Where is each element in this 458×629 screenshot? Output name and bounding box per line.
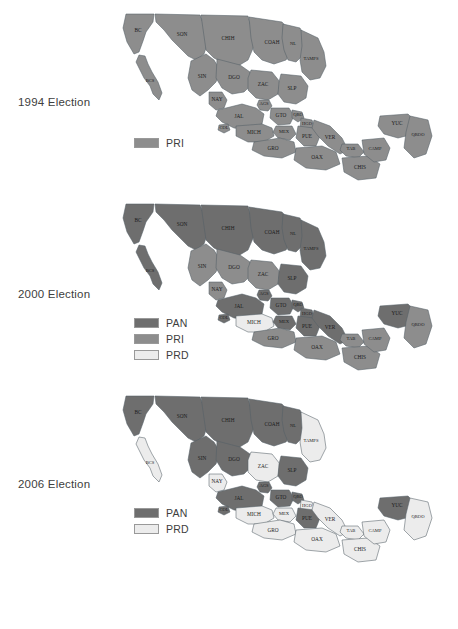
state-label-gto: GTO bbox=[276, 494, 287, 500]
panel-title-1994: 1994 Election bbox=[18, 96, 90, 108]
state-label-pue: PUE bbox=[302, 323, 312, 329]
state-label-yuc: YUC bbox=[391, 502, 403, 508]
state-son bbox=[155, 396, 208, 442]
panel-election-1994: 1994 Election PRI BCBCSSONCHIHCOAHNLTAMP… bbox=[0, 8, 458, 198]
state-label-col: COL bbox=[219, 315, 228, 320]
state-label-ver: VER bbox=[325, 516, 336, 522]
state-label-tamps: TAMPS bbox=[304, 246, 319, 251]
state-label-slp: SLP bbox=[287, 275, 296, 281]
state-label-coah: COAH bbox=[264, 39, 279, 45]
state-label-bcs: BCS bbox=[146, 78, 155, 83]
mexico-map-svg: BCBCSSONCHIHCOAHNLTAMPSSINDGOZACSLPNAYAG… bbox=[96, 8, 458, 198]
state-label-ags: AGS bbox=[259, 291, 269, 296]
state-label-qroo: QROO bbox=[411, 514, 425, 519]
state-label-tamps: TAMPS bbox=[304, 56, 319, 61]
state-label-coah: COAH bbox=[264, 421, 279, 427]
state-label-oax: OAX bbox=[311, 154, 323, 160]
state-label-qroo: QROO bbox=[411, 132, 425, 137]
state-label-mich: MICH bbox=[247, 129, 261, 135]
state-label-tamps: TAMPS bbox=[304, 438, 319, 443]
state-label-jal: JAL bbox=[234, 495, 243, 501]
state-label-yuc: YUC bbox=[391, 120, 403, 126]
state-label-mich: MICH bbox=[247, 511, 261, 517]
panel-title-2000: 2000 Election bbox=[18, 288, 90, 300]
state-bc bbox=[123, 204, 154, 244]
state-tamps bbox=[300, 220, 326, 270]
state-label-nl: NL bbox=[290, 423, 296, 428]
state-son bbox=[155, 14, 208, 60]
state-label-bcs: BCS bbox=[146, 460, 155, 465]
state-label-dgo: DGO bbox=[228, 74, 240, 80]
state-label-camp: CAMP bbox=[368, 146, 381, 151]
state-label-sin: SIN bbox=[198, 73, 207, 79]
state-label-tab: TAB bbox=[347, 336, 356, 341]
state-label-pue: PUE bbox=[302, 515, 312, 521]
state-label-ags: AGS bbox=[259, 483, 269, 488]
state-label-chis: CHIS bbox=[354, 546, 366, 552]
state-label-nay: NAY bbox=[212, 96, 223, 102]
state-qroo bbox=[404, 116, 432, 158]
state-qroo bbox=[404, 306, 432, 348]
map-2006: BCBCSSONCHIHCOAHNLTAMPSSINDGOZACSLPNAYAG… bbox=[96, 390, 458, 580]
state-tamps bbox=[300, 30, 326, 80]
panel-election-2000: 2000 Election PAN PRI PRD BCBCSSONCHIHCO… bbox=[0, 198, 458, 388]
state-label-zac: ZAC bbox=[258, 463, 269, 469]
map-2000: BCBCSSONCHIHCOAHNLTAMPSSINDGOZACSLPNAYAG… bbox=[96, 198, 458, 388]
state-label-dgo: DGO bbox=[228, 456, 240, 462]
state-label-tab: TAB bbox=[347, 146, 356, 151]
state-label-chih: CHIH bbox=[222, 225, 235, 231]
state-label-mich: MICH bbox=[247, 319, 261, 325]
state-label-qro: QRO bbox=[293, 494, 303, 499]
state-label-gro: GRO bbox=[267, 145, 278, 151]
state-label-jal: JAL bbox=[234, 113, 243, 119]
state-label-gro: GRO bbox=[267, 527, 278, 533]
state-label-sin: SIN bbox=[198, 263, 207, 269]
state-label-col: COL bbox=[219, 507, 228, 512]
state-label-nay: NAY bbox=[212, 286, 223, 292]
state-label-oax: OAX bbox=[311, 344, 323, 350]
state-label-ags: AGS bbox=[259, 101, 269, 106]
panel-title-2006: 2006 Election bbox=[18, 478, 90, 490]
state-label-qroo: QROO bbox=[411, 322, 425, 327]
state-label-tab: TAB bbox=[347, 528, 356, 533]
state-label-bc: BC bbox=[134, 409, 142, 415]
mexico-map-svg: BCBCSSONCHIHCOAHNLTAMPSSINDGOZACSLPNAYAG… bbox=[96, 390, 458, 580]
state-label-ver: VER bbox=[325, 324, 336, 330]
state-label-mex: MEX bbox=[279, 129, 290, 134]
state-label-bc: BC bbox=[134, 217, 142, 223]
state-label-son: SON bbox=[177, 31, 188, 37]
state-label-camp: CAMP bbox=[368, 336, 381, 341]
state-son bbox=[155, 204, 208, 250]
state-label-son: SON bbox=[177, 221, 188, 227]
state-label-dgo: DGO bbox=[228, 264, 240, 270]
state-label-chis: CHIS bbox=[354, 354, 366, 360]
state-label-camp: CAMP bbox=[368, 528, 381, 533]
state-label-yuc: YUC bbox=[391, 310, 403, 316]
state-label-hgo: HGO bbox=[302, 121, 313, 126]
mexico-map-svg: BCBCSSONCHIHCOAHNLTAMPSSINDGOZACSLPNAYAG… bbox=[96, 198, 458, 388]
state-label-sin: SIN bbox=[198, 455, 207, 461]
state-label-slp: SLP bbox=[287, 85, 296, 91]
state-label-chih: CHIH bbox=[222, 417, 235, 423]
state-label-coah: COAH bbox=[264, 229, 279, 235]
election-maps-figure: 1994 Election PRI BCBCSSONCHIHCOAHNLTAMP… bbox=[0, 0, 458, 629]
state-label-gto: GTO bbox=[276, 302, 287, 308]
state-label-nl: NL bbox=[290, 41, 296, 46]
state-label-qro: QRO bbox=[293, 302, 303, 307]
state-bc bbox=[123, 14, 154, 54]
state-label-oax: OAX bbox=[311, 536, 323, 542]
state-bc bbox=[123, 396, 154, 436]
state-label-zac: ZAC bbox=[258, 81, 269, 87]
map-1994: BCBCSSONCHIHCOAHNLTAMPSSINDGOZACSLPNAYAG… bbox=[96, 8, 458, 198]
state-label-son: SON bbox=[177, 413, 188, 419]
state-label-chis: CHIS bbox=[354, 164, 366, 170]
state-tamps bbox=[300, 412, 326, 462]
state-label-col: COL bbox=[219, 125, 228, 130]
state-label-hgo: HGO bbox=[302, 311, 313, 316]
state-label-nl: NL bbox=[290, 231, 296, 236]
panel-election-2006: 2006 Election PAN PRD BCBCSSONCHIHCOAHNL… bbox=[0, 390, 458, 580]
state-label-zac: ZAC bbox=[258, 271, 269, 277]
state-label-mex: MEX bbox=[279, 511, 290, 516]
state-label-hgo: HGO bbox=[302, 503, 313, 508]
state-label-ver: VER bbox=[325, 134, 336, 140]
